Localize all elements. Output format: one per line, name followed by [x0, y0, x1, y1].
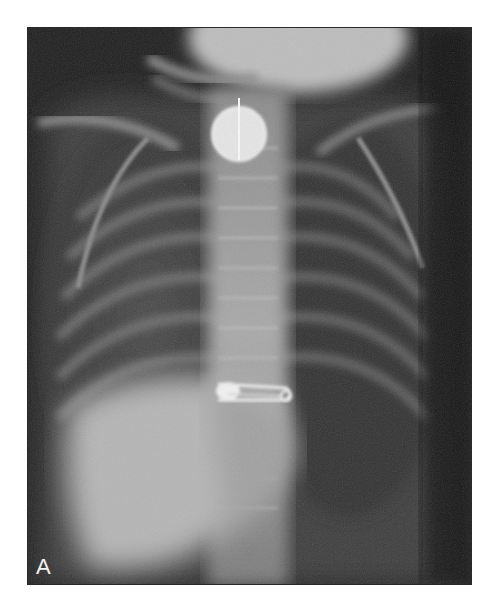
xray-image: A [27, 27, 472, 585]
xray-illustration [28, 28, 472, 585]
panel-label: A [36, 556, 51, 578]
